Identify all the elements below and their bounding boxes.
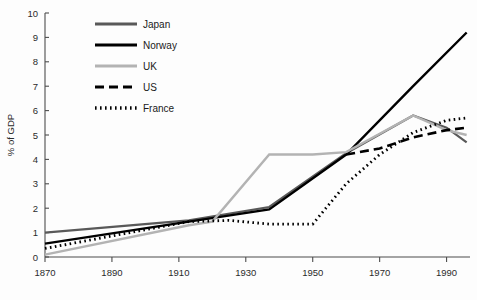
y-tick-label: 5 xyxy=(33,130,38,141)
y-tick-label: 4 xyxy=(33,154,38,165)
x-tick-label: 1910 xyxy=(168,267,189,278)
chart-container: 012345678910 187018901910193019501970199… xyxy=(0,0,477,300)
y-tick-label: 3 xyxy=(33,178,38,189)
y-tick-label: 6 xyxy=(33,105,38,116)
y-tick-label: 0 xyxy=(33,252,38,263)
x-tick-label: 1890 xyxy=(101,267,122,278)
series-line-france xyxy=(45,118,467,249)
line-chart: 012345678910 187018901910193019501970199… xyxy=(0,0,477,300)
y-tick-label: 10 xyxy=(27,8,38,19)
x-tick-label: 1990 xyxy=(436,267,457,278)
legend-label-us: US xyxy=(143,82,157,93)
x-tick-label: 1950 xyxy=(302,267,323,278)
chart-legend: JapanNorwayUKUSFrance xyxy=(95,19,177,114)
series-line-japan xyxy=(45,115,467,232)
y-tick-label: 8 xyxy=(33,56,38,67)
x-tick-label: 1970 xyxy=(369,267,390,278)
legend-label-japan: Japan xyxy=(143,19,170,30)
y-tick-label: 2 xyxy=(33,203,38,214)
x-tick-label: 1930 xyxy=(235,267,256,278)
y-tick-label: 1 xyxy=(33,227,38,238)
y-tick-label: 7 xyxy=(33,81,38,92)
x-axis: 1870189019101930195019701990 xyxy=(34,257,470,278)
x-tick-label: 1870 xyxy=(34,267,55,278)
legend-label-france: France xyxy=(143,103,175,114)
legend-label-norway: Norway xyxy=(143,40,177,51)
y-tick-label: 9 xyxy=(33,32,38,43)
y-axis-title: % of GDP xyxy=(5,114,16,156)
legend-label-uk: UK xyxy=(143,61,157,72)
y-axis: 012345678910 xyxy=(27,8,49,263)
